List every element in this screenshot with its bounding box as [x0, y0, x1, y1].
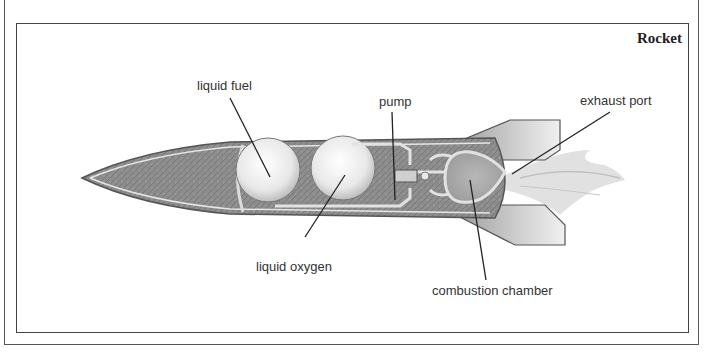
- rocket-illustration: [0, 0, 706, 352]
- liquid-oxygen-tank: [311, 136, 375, 200]
- label-liquid-fuel: liquid fuel: [197, 78, 252, 93]
- label-exhaust-port: exhaust port: [580, 93, 652, 108]
- label-liquid-oxygen: liquid oxygen: [256, 259, 332, 274]
- liquid-fuel-tank: [236, 138, 300, 202]
- label-pump: pump: [379, 94, 412, 109]
- pump-unit: [395, 170, 417, 182]
- label-combustion-chamber: combustion chamber: [432, 283, 553, 298]
- diagram-title: Rocket: [637, 30, 682, 47]
